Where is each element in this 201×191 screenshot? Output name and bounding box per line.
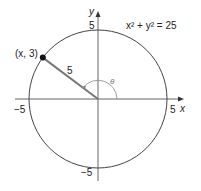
y-axis-arrow-icon xyxy=(96,11,101,17)
tick-x-neg: −5 xyxy=(14,104,26,115)
point-label: (x, 3) xyxy=(15,48,38,59)
angle-label: θ xyxy=(110,77,115,86)
tick-y-neg: −5 xyxy=(81,167,93,178)
point-marker xyxy=(40,55,46,61)
y-axis-label: y xyxy=(88,6,95,17)
radius-segment xyxy=(43,58,98,99)
tick-x-pos: 5 xyxy=(170,104,176,115)
tick-y-pos: 5 xyxy=(89,20,95,31)
radius-label: 5 xyxy=(67,65,73,76)
unit-circle-diagram: x² + y² = 25 (x, 3) 5 θ x y 5 −5 5 −5 xyxy=(0,0,201,191)
x-axis-arrow-icon xyxy=(178,97,184,102)
x-axis-label: x xyxy=(179,103,186,114)
equation-label: x² + y² = 25 xyxy=(126,20,177,31)
